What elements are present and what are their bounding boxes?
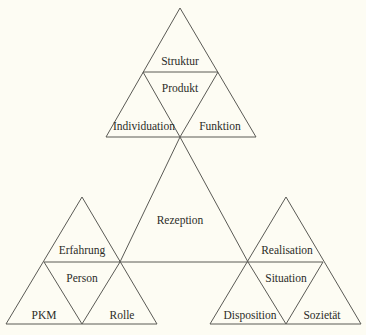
label-funktion: Funktion <box>199 120 241 132</box>
label-struktur: Struktur <box>161 55 199 67</box>
center-triangle: Rezeption <box>119 137 248 262</box>
left-triangle: Erfahrung Person PKM Rolle <box>6 197 157 324</box>
label-produkt: Produkt <box>162 82 199 94</box>
triangle-diagram: Struktur Produkt Individuation Funktion … <box>0 0 366 335</box>
label-sozietaet: Sozietät <box>303 309 341 321</box>
right-triangle-outline <box>210 197 361 324</box>
label-person: Person <box>66 272 98 284</box>
right-triangle: Realisation Situation Disposition Soziet… <box>210 197 361 324</box>
label-rolle: Rolle <box>110 309 135 321</box>
left-triangle-outline <box>6 197 157 324</box>
top-triangle: Struktur Produkt Individuation Funktion <box>106 8 256 137</box>
label-erfahrung: Erfahrung <box>59 244 106 257</box>
label-pkm: PKM <box>32 309 57 321</box>
center-left-edge <box>120 137 180 262</box>
center-right-edge <box>180 137 248 262</box>
label-disposition: Disposition <box>223 309 276 322</box>
label-rezeption: Rezeption <box>157 214 204 227</box>
label-realisation: Realisation <box>261 244 313 256</box>
label-individuation: Individuation <box>113 120 175 132</box>
label-situation: Situation <box>265 272 307 284</box>
